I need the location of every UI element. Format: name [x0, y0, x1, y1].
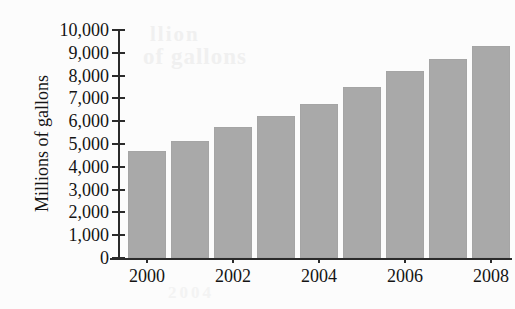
- x-tick-mark: [490, 258, 492, 263]
- x-tick-label: 2006: [387, 266, 423, 287]
- y-tick-label: 9,000: [69, 42, 110, 63]
- x-tick-mark: [146, 258, 148, 263]
- y-tick-label: 1,000: [69, 225, 110, 246]
- bar-2000: [128, 151, 166, 258]
- page-showthrough-artifact-3: 2004: [168, 283, 214, 303]
- x-tick-label: 2004: [301, 266, 337, 287]
- chart-figure: llion of gallons 2004 Millions of gallon…: [0, 0, 515, 309]
- y-tick-label: 6,000: [69, 111, 110, 132]
- bar-2001: [171, 141, 209, 258]
- x-tick-mark: [404, 258, 406, 263]
- x-tick-label: 2008: [473, 266, 509, 287]
- y-tick-label: 10,000: [60, 20, 110, 41]
- x-axis-line: [110, 258, 512, 260]
- plot-area: 01,0002,0003,0004,0005,0006,0007,0008,00…: [118, 30, 510, 258]
- bar-series: [118, 30, 510, 258]
- bar-2005: [343, 87, 381, 258]
- y-tick-label: 4,000: [69, 156, 110, 177]
- bar-2006: [386, 71, 424, 258]
- x-tick-mark: [232, 258, 234, 263]
- y-tick-label: 2,000: [69, 202, 110, 223]
- x-tick-label: 2002: [215, 266, 251, 287]
- y-tick-label: 8,000: [69, 65, 110, 86]
- bar-2002: [214, 127, 252, 258]
- bar-2004: [300, 104, 338, 258]
- bar-2008: [472, 46, 510, 258]
- y-tick-label: 3,000: [69, 179, 110, 200]
- x-tick-label: 2000: [129, 266, 165, 287]
- y-tick-label: 7,000: [69, 88, 110, 109]
- y-tick-label: 0: [100, 248, 109, 269]
- y-axis-title: Millions of gallons: [32, 44, 53, 244]
- bar-2007: [429, 59, 467, 259]
- x-tick-mark: [318, 258, 320, 263]
- y-tick-label: 5,000: [69, 134, 110, 155]
- bar-2003: [257, 116, 295, 259]
